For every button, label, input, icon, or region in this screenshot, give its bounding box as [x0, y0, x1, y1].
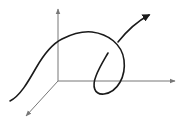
curve-main-segment	[10, 32, 124, 101]
space-curve-diagram	[0, 0, 186, 126]
space-curve	[10, 15, 149, 101]
coordinate-axes	[26, 9, 175, 116]
depth-axis	[26, 81, 58, 116]
diagram-canvas	[0, 0, 186, 126]
curve-tail-segment	[118, 15, 149, 42]
